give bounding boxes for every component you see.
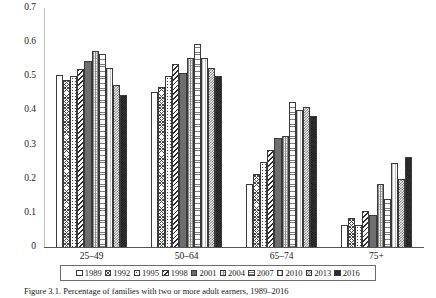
bar [348, 218, 355, 247]
legend-swatch-icon [76, 270, 83, 277]
bar-chart: 0.70.60.50.40.30.20.10 25–4950–6465–7475… [0, 0, 436, 298]
bar-group [234, 8, 329, 247]
bar [246, 184, 253, 247]
x-axis-line [44, 247, 424, 248]
legend-swatch-icon [162, 270, 169, 277]
legend-item-label: 1998 [171, 269, 188, 278]
legend-swatch-icon [277, 270, 284, 277]
legend-item[interactable]: 2013 [306, 269, 332, 278]
x-axis-category-label: 50–64 [139, 249, 234, 265]
y-axis-tick-label: 0.4 [24, 106, 36, 116]
y-axis-tick-label: 0 [31, 242, 36, 252]
chart-legend: 1989199219951998200120042007201020132016 [60, 265, 376, 281]
bar [106, 68, 113, 247]
bar [77, 69, 84, 247]
legend-item[interactable]: 2016 [334, 269, 360, 278]
x-axis-category-label: 75+ [329, 249, 424, 265]
bar-group [329, 8, 424, 247]
bar [208, 68, 215, 247]
legend-item[interactable]: 1992 [105, 269, 131, 278]
legend-swatch-icon [248, 270, 255, 277]
bar [377, 184, 384, 247]
legend-item-label: 2010 [285, 269, 302, 278]
legend-item[interactable]: 1998 [162, 269, 188, 278]
y-axis-tick-label: 0.7 [24, 3, 36, 13]
legend-item[interactable]: 1995 [134, 269, 160, 278]
bar [310, 116, 317, 247]
bar [253, 174, 260, 247]
bar [99, 54, 106, 247]
bar [179, 73, 186, 247]
x-axis-category-labels: 25–4950–6465–7475+ [44, 249, 424, 265]
legend-swatch-icon [134, 270, 141, 277]
legend-swatch-icon [191, 270, 198, 277]
bar [355, 225, 362, 247]
bar [92, 51, 99, 247]
bar [369, 215, 376, 247]
y-axis-tick-label: 0.6 [24, 37, 36, 47]
bar [274, 138, 281, 247]
bar-group [44, 8, 139, 247]
bar [151, 92, 158, 247]
legend-item-label: 2013 [314, 269, 331, 278]
legend-item-label: 1989 [85, 269, 102, 278]
bar [260, 162, 267, 247]
plot-bars [44, 8, 424, 247]
bar [56, 75, 63, 247]
bar [303, 107, 310, 247]
y-axis-tick-label: 0.2 [24, 174, 36, 184]
bar [165, 76, 172, 247]
legend-swatch-icon [334, 270, 341, 277]
figure-caption: Figure 3.1. Percentage of families with … [24, 286, 424, 297]
legend-item-label: 2004 [228, 269, 245, 278]
bar [158, 87, 165, 247]
y-axis-tick-label: 0.5 [24, 72, 36, 82]
legend-item[interactable]: 1989 [76, 269, 102, 278]
bar [172, 64, 179, 247]
bar [63, 80, 70, 247]
bar [201, 58, 208, 247]
legend-swatch-icon [105, 270, 112, 277]
legend-item[interactable]: 2010 [277, 269, 303, 278]
bar [267, 150, 274, 247]
legend-item[interactable]: 2004 [220, 269, 246, 278]
bar [187, 58, 194, 247]
bar [405, 157, 412, 247]
legend-item[interactable]: 2007 [248, 269, 274, 278]
x-axis-category-label: 25–49 [44, 249, 139, 265]
legend-item-label: 1995 [142, 269, 159, 278]
bar [384, 199, 391, 247]
y-axis-tick-label: 0.3 [24, 140, 36, 150]
legend-item[interactable]: 2001 [191, 269, 217, 278]
bar [84, 61, 91, 247]
x-axis-category-label: 65–74 [234, 249, 329, 265]
bar [362, 211, 369, 247]
bar [289, 102, 296, 247]
bar [215, 76, 222, 247]
bar [120, 95, 127, 247]
bar [282, 136, 289, 247]
y-axis: 0.70.60.50.40.30.20.10 [0, 0, 40, 247]
bar [391, 163, 398, 247]
y-axis-tick-label: 0.1 [24, 208, 36, 218]
legend-swatch-icon [220, 270, 227, 277]
bar [194, 44, 201, 247]
bar [113, 85, 120, 247]
legend-item-label: 2016 [343, 269, 360, 278]
bar [296, 110, 303, 247]
bar [398, 179, 405, 247]
legend-item-label: 1992 [113, 269, 130, 278]
legend-swatch-icon [306, 270, 313, 277]
bar [70, 76, 77, 247]
bar [341, 225, 348, 247]
bar-group [139, 8, 234, 247]
legend-item-label: 2007 [257, 269, 274, 278]
legend-item-label: 2001 [199, 269, 216, 278]
